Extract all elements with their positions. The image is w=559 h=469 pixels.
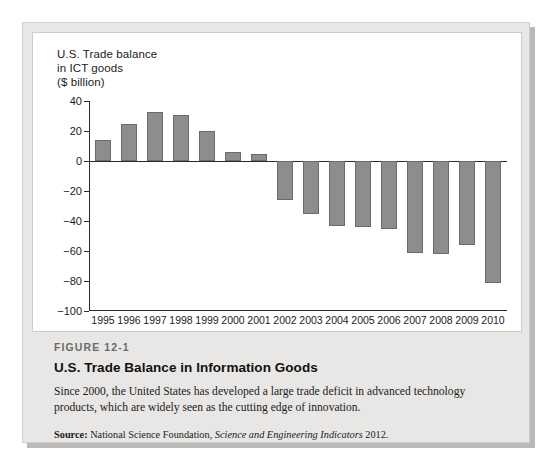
plot-area: 40200−20−40−60−80−100 (89, 101, 507, 311)
chart-panel: U.S. Trade balance in ICT goods ($ billi… (32, 32, 522, 332)
y-tick-mark (84, 131, 89, 132)
bar-2007 (407, 161, 423, 253)
figure-title: U.S. Trade Balance in Information Goods (54, 360, 522, 375)
x-label-2007: 2007 (402, 314, 428, 326)
y-tick-label: −80 (63, 275, 82, 287)
y-tick-mark (84, 101, 89, 102)
figure-description: Since 2000, the United States has develo… (54, 384, 488, 415)
x-label-2000: 2000 (220, 314, 246, 326)
bar-2006 (381, 161, 397, 229)
y-tick-mark (84, 191, 89, 192)
y-tick-mark (84, 281, 89, 282)
bar-2008 (433, 161, 449, 254)
y-tick-label: 20 (70, 125, 82, 137)
x-label-2003: 2003 (298, 314, 324, 326)
y-tick-label: −60 (63, 245, 82, 257)
source-year: 2012. (363, 429, 389, 440)
source-publication: Science and Engineering Indicators (215, 429, 363, 440)
bar-1998 (173, 115, 189, 162)
y-tick-mark (84, 221, 89, 222)
x-label-2010: 2010 (480, 314, 506, 326)
bar-2010 (485, 161, 501, 283)
source-organization: National Science Foundation, (88, 429, 215, 440)
x-label-1995: 1995 (90, 314, 116, 326)
x-label-2001: 2001 (246, 314, 272, 326)
bar-1999 (199, 131, 215, 161)
bar-1996 (121, 124, 137, 162)
y-tick-label: −100 (57, 305, 82, 317)
x-label-1997: 1997 (142, 314, 168, 326)
bar-1997 (147, 112, 163, 162)
figure-caption: FIGURE 12-1 U.S. Trade Balance in Inform… (32, 341, 522, 442)
x-label-1999: 1999 (194, 314, 220, 326)
y-tick-mark (84, 311, 89, 312)
x-label-2009: 2009 (454, 314, 480, 326)
x-label-1998: 1998 (168, 314, 194, 326)
chart-axis-title: U.S. Trade balance in ICT goods ($ billi… (57, 47, 157, 89)
y-tick-mark (84, 251, 89, 252)
x-axis-labels: 1995199619971998199920002001200220032004… (90, 314, 508, 330)
bar-2009 (459, 161, 475, 245)
y-tick-label: 40 (70, 95, 82, 107)
bar-series (90, 101, 507, 311)
y-tick-label: 0 (76, 155, 82, 167)
figure-page: U.S. Trade balance in ICT goods ($ billi… (0, 0, 559, 469)
y-tick-label: −40 (63, 215, 82, 227)
bar-2001 (251, 154, 267, 162)
x-label-2004: 2004 (324, 314, 350, 326)
figure-source: Source: National Science Foundation, Sci… (54, 428, 488, 442)
x-label-2002: 2002 (272, 314, 298, 326)
x-label-2005: 2005 (350, 314, 376, 326)
x-label-1996: 1996 (116, 314, 142, 326)
figure-number: FIGURE 12-1 (54, 341, 522, 353)
bar-2002 (277, 161, 293, 200)
bar-2003 (303, 161, 319, 214)
figure-box: U.S. Trade balance in ICT goods ($ billi… (22, 22, 530, 443)
source-label: Source: (54, 429, 88, 440)
bar-1995 (95, 140, 111, 161)
bar-2004 (329, 161, 345, 226)
bar-2005 (355, 161, 371, 227)
y-tick-label: −20 (63, 185, 82, 197)
x-label-2006: 2006 (376, 314, 402, 326)
bar-2000 (225, 152, 241, 161)
x-label-2008: 2008 (428, 314, 454, 326)
